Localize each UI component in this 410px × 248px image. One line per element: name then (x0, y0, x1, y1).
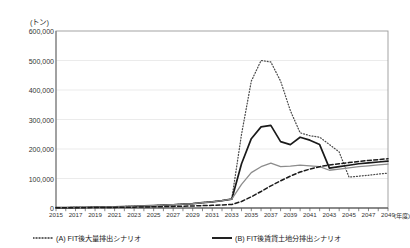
series-line (56, 125, 388, 207)
legend-item: (A) FIT後大量排出シナリオ (33, 233, 141, 243)
chart-legend: (A) FIT後大量排出シナリオ(B) FIT後賃貸土地分排出シナリオ (0, 230, 408, 248)
legend-label: (A) FIT後大量排出シナリオ (56, 233, 141, 243)
series-line (56, 163, 388, 208)
legend-line-swatch (33, 235, 53, 241)
legend-item: (B) FIT後賃貸土地分排出シナリオ (212, 233, 341, 243)
series-line (56, 61, 388, 208)
legend-line-swatch (212, 235, 232, 241)
legend-label: (B) FIT後賃貸土地分排出シナリオ (235, 233, 341, 243)
